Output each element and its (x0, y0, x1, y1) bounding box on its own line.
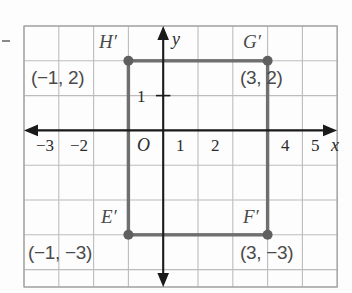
x-tick-label-4: 4 (281, 137, 290, 154)
y-axis-arrow-down (157, 273, 169, 287)
x-tick-label-5: 5 (311, 137, 320, 154)
point-coord-E: (−1, −3) (28, 243, 92, 262)
point-coord-F: (3, −3) (240, 243, 293, 262)
point-label-H: H′ (99, 32, 117, 51)
y-axis-label: y (172, 30, 180, 48)
y-axis-arrow-up (157, 26, 169, 40)
x-tick-label--2: −2 (70, 137, 88, 154)
origin-label: O (137, 136, 150, 154)
vertex-dot-E (123, 230, 133, 240)
point-coord-H: (−1, 2) (31, 68, 84, 87)
x-axis-label: x (331, 136, 339, 154)
x-tick-label--3: −3 (36, 137, 54, 154)
vertex-dot-F (263, 230, 273, 240)
point-label-E: E′ (101, 207, 117, 226)
y-tick-label-1: 1 (137, 88, 146, 105)
vertex-dot-G (263, 56, 273, 66)
x-tick-label-1: 1 (176, 137, 185, 154)
vertex-dot-H (123, 56, 133, 66)
x-tick-label-2: 2 (211, 137, 220, 154)
point-label-F: F′ (243, 207, 259, 226)
x-axis-arrow-left (24, 125, 38, 137)
coordinate-plane-figure: H′ (−1, 2) G′ (3, 2) E′ (−1, −3) F′ (3, … (0, 0, 352, 293)
point-coord-G: (3, 2) (240, 68, 283, 87)
point-label-G: G′ (243, 32, 261, 51)
